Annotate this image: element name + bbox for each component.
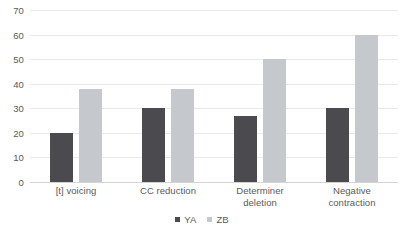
x-axis-category-label: Determinerdeletion <box>214 185 306 213</box>
bar-zb[interactable] <box>79 89 102 182</box>
chart-legend: YAZB <box>0 214 404 225</box>
bar-zb[interactable] <box>355 35 378 182</box>
y-axis-tick-label: 50 <box>13 54 24 65</box>
x-axis-labels: [t] voicingCC reductionDeterminerdeletio… <box>30 185 398 213</box>
y-axis-tick-label: 40 <box>13 78 24 89</box>
y-axis-tick-label: 10 <box>13 152 24 163</box>
bar-ya[interactable] <box>142 108 165 182</box>
legend-label: ZB <box>216 214 228 225</box>
bar-group <box>122 10 214 182</box>
legend-item-ya[interactable]: YA <box>175 214 196 225</box>
y-axis-tick-label: 60 <box>13 29 24 40</box>
legend-swatch-icon <box>175 217 180 222</box>
bar-group <box>214 10 306 182</box>
bar-chart: 010203040506070 [t] voicingCC reductionD… <box>0 0 404 233</box>
bar-group <box>30 10 122 182</box>
bar-group <box>306 10 398 182</box>
axis-baseline <box>30 182 398 183</box>
y-axis-tick-label: 0 <box>19 177 24 188</box>
bar-groups <box>30 10 398 182</box>
bar-ya[interactable] <box>234 116 257 182</box>
bar-zb[interactable] <box>263 59 286 182</box>
legend-item-zb[interactable]: ZB <box>207 214 228 225</box>
bar-ya[interactable] <box>326 108 349 182</box>
bar-zb[interactable] <box>171 89 194 182</box>
y-axis-tick-label: 20 <box>13 127 24 138</box>
y-axis-tick-label: 70 <box>13 5 24 16</box>
x-axis-category-label: CC reduction <box>122 185 214 213</box>
x-axis-category-label: [t] voicing <box>30 185 122 213</box>
x-axis-category-label: Negativecontraction <box>306 185 398 213</box>
bar-ya[interactable] <box>50 133 73 182</box>
legend-swatch-icon <box>207 217 212 222</box>
y-axis-tick-label: 30 <box>13 103 24 114</box>
legend-label: YA <box>184 214 196 225</box>
plot-area <box>30 10 398 182</box>
y-axis-labels: 010203040506070 <box>0 0 30 182</box>
